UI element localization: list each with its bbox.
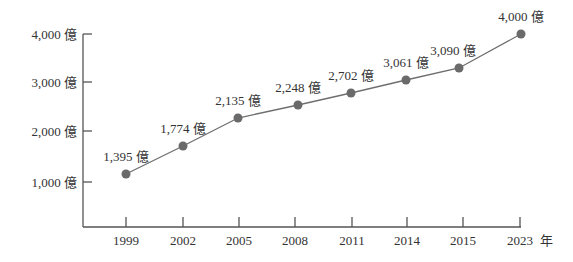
x-tick-label: 2008 — [282, 233, 308, 248]
data-point-label: 3,090 億 — [430, 43, 476, 58]
x-tick-label: 2005 — [226, 233, 252, 248]
x-tick-label: 2014 — [394, 233, 421, 248]
data-point — [455, 64, 464, 73]
data-point-label: 4,000 億 — [498, 9, 544, 24]
x-ticks: 19992002200520082011201420152023 — [113, 217, 533, 248]
data-point — [294, 101, 303, 110]
data-point-label: 2,135 億 — [215, 93, 261, 108]
x-tick-label: 2002 — [170, 233, 196, 248]
x-tick-label: 1999 — [113, 233, 139, 248]
data-point — [122, 170, 131, 179]
x-tick-label: 2011 — [339, 233, 365, 248]
data-point — [402, 76, 411, 85]
line-chart: 1,000 億2,000 億3,000 億4,000 億 19992002200… — [0, 0, 573, 262]
data-point-label: 3,061 億 — [383, 55, 429, 70]
data-point — [517, 30, 526, 39]
x-tick-label: 2015 — [450, 233, 476, 248]
y-tick-label: 4,000 億 — [32, 27, 78, 42]
data-point-label: 2,248 億 — [275, 80, 321, 95]
y-tick-label: 1,000 億 — [32, 175, 78, 190]
data-point — [347, 89, 356, 98]
y-tick-label: 2,000 億 — [32, 124, 78, 139]
data-point — [179, 142, 188, 151]
y-tick-label: 3,000 億 — [32, 75, 78, 90]
data-point-label: 1,774 億 — [160, 121, 206, 136]
data-point-label: 1,395 億 — [103, 149, 149, 164]
point-labels: 1,395 億1,774 億2,135 億2,248 億2,702 億3,061… — [103, 9, 544, 164]
data-point-label: 2,702 億 — [328, 68, 374, 83]
x-tick-label: 2023 — [507, 233, 533, 248]
data-point — [234, 114, 243, 123]
axes — [83, 34, 521, 227]
x-axis-unit-label: 年 — [540, 233, 553, 248]
